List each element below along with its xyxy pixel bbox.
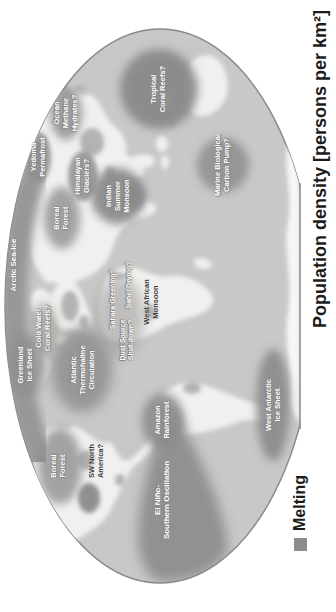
melting-label: Melting bbox=[291, 475, 309, 531]
new-zealand bbox=[231, 48, 249, 56]
tipping-label-el-nino-southern-oscillation: El Niño- Southern Oscillation bbox=[153, 461, 172, 539]
tipping-label-west-african-monsoon: West African Monsoon bbox=[143, 279, 161, 324]
tipping-label-amazon-rainforest: Amazon Rainforest bbox=[154, 401, 172, 438]
tipping-label-indian-summer-monsoon: Indian Summer Monsoon bbox=[105, 179, 132, 212]
tipping-label-himalayan-glaciers: Himalayan Glaciers? bbox=[74, 157, 92, 195]
tipping-label-sahel-drying: Sahel Drying? bbox=[125, 261, 133, 308]
tipping-label-dust-source-shutdown: Dust Source Shut-down? bbox=[119, 319, 136, 360]
tipping-label-tropical-coral-reefs: Tropical Coral Reefs? bbox=[150, 66, 168, 112]
borneo bbox=[156, 136, 168, 152]
tipping-label-boreal-forest-na: Boreal Forest bbox=[50, 454, 68, 477]
legend-melting: Melting bbox=[291, 475, 309, 551]
rotated-map-figure: Arctic Sea-Ice Greenland Ice Sheet Cold … bbox=[0, 0, 336, 612]
tipping-label-atlantic-thermohaline: Atlantic Thermohaline Circulation bbox=[70, 345, 97, 394]
tipping-label-greenland-ice-sheet: Greenland Ice Sheet bbox=[17, 346, 35, 383]
tipping-label-marine-bio-carbon-pump: Marine Biological Carbon Pump? bbox=[214, 134, 232, 196]
tipping-label-sahara-greening: Sahara Greening? bbox=[109, 269, 117, 329]
tipping-label-west-antarctic-ice-sheet: West Antarctic Ice Sheet bbox=[265, 379, 283, 431]
oval-sw-north-america bbox=[78, 483, 100, 513]
tipping-label-cold-water-coral-reefs: Cold Water Coral Reefs? bbox=[35, 305, 53, 351]
sumatra bbox=[161, 155, 169, 169]
tipping-label-ocean-methane-hydrates: Ocean Methane Hydrates? bbox=[53, 95, 80, 132]
tipping-label-arctic-sea-ice: Arctic Sea-Ice bbox=[9, 239, 18, 292]
tipping-label-sw-north-america: SW North America? bbox=[88, 444, 106, 478]
screenshot-root: { "page": { "background": "#ffffff" }, "… bbox=[0, 0, 336, 612]
melting-swatch bbox=[294, 538, 307, 551]
tipping-label-boreal-forest-eurasia: Boreal Forest bbox=[53, 206, 71, 229]
tipping-label-yedoma-permafrost: Yedoma Permafrost bbox=[30, 137, 48, 177]
colorbar-caption: Population density [persons per km²] bbox=[310, 10, 331, 328]
